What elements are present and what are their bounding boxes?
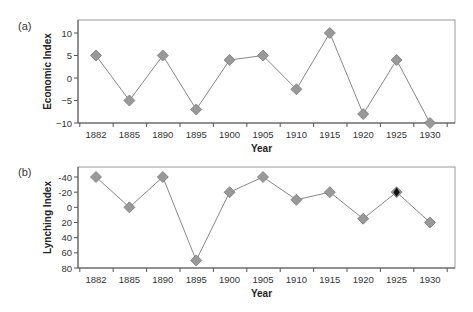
- x-tick-label: 1895: [186, 129, 207, 140]
- x-tick-label: 1920: [353, 274, 374, 285]
- x-tick-label: 1890: [152, 129, 173, 140]
- y-tick-label: -40: [58, 172, 72, 183]
- x-tick-label: 1910: [286, 274, 307, 285]
- data-point-diamond-marker: [358, 213, 369, 224]
- x-tick-label: 1905: [252, 274, 273, 285]
- x-tick-label: 1930: [419, 274, 440, 285]
- x-tick-label: 1885: [119, 274, 140, 285]
- lynching-index-chart: (b) -40-20020406080188218851890189519001…: [0, 150, 473, 312]
- data-point-diamond-marker: [324, 187, 335, 198]
- x-tick-label: 1920: [353, 129, 374, 140]
- x-tick-label: 1882: [85, 274, 106, 285]
- economic-index-plot: 1050−5−101882188518901895190019051910191…: [0, 0, 473, 156]
- y-tick-label: 60: [61, 247, 72, 258]
- x-tick-label: 1900: [219, 129, 240, 140]
- y-axis-title: Economic Index: [42, 33, 53, 110]
- data-point-diamond-marker: [224, 55, 235, 66]
- y-tick-label: 5: [67, 50, 72, 61]
- y-axis-title: Lynching Index: [42, 181, 53, 254]
- y-tick-label: 10: [61, 28, 72, 39]
- data-point-diamond-marker: [291, 194, 302, 205]
- x-tick-label: 1910: [286, 129, 307, 140]
- lynching-index-plot: -40-200204060801882188518901895190019051…: [0, 150, 473, 312]
- x-tick-label: 1915: [319, 274, 340, 285]
- data-point-diamond-marker: [191, 255, 202, 266]
- x-tick-label: 1900: [219, 274, 240, 285]
- data-point-diamond-marker: [191, 104, 202, 115]
- x-tick-label: 1915: [319, 129, 340, 140]
- y-tick-label: 80: [61, 263, 72, 274]
- y-tick-label: −5: [61, 95, 72, 106]
- x-tick-label: 1890: [152, 274, 173, 285]
- y-tick-label: −10: [56, 118, 72, 129]
- y-tick-label: -20: [58, 187, 72, 198]
- data-point-diamond-marker: [258, 172, 269, 183]
- x-tick-label: 1885: [119, 129, 140, 140]
- plot-frame: [78, 20, 455, 123]
- x-tick-label: 1925: [386, 129, 407, 140]
- data-point-diamond-marker: [324, 28, 335, 39]
- x-tick-label: 1895: [186, 274, 207, 285]
- x-tick-label: 1905: [252, 129, 273, 140]
- data-point-diamond-marker: [391, 55, 402, 66]
- y-tick-label: 40: [61, 232, 72, 243]
- series-line: [96, 177, 430, 260]
- plot-frame: [78, 167, 455, 268]
- x-tick-label: 1882: [85, 129, 106, 140]
- economic-index-chart: (a) 1050−5−10188218851890189519001905191…: [0, 0, 473, 156]
- y-tick-label: 0: [67, 73, 72, 84]
- x-axis-title: Year: [251, 288, 272, 299]
- y-tick-label: 0: [67, 202, 72, 213]
- data-point-diamond-marker: [91, 50, 102, 61]
- data-point-diamond-marker: [425, 118, 436, 129]
- y-tick-label: 20: [61, 217, 72, 228]
- x-tick-label: 1925: [386, 274, 407, 285]
- series-line: [96, 33, 430, 123]
- data-point-diamond-marker: [358, 109, 369, 120]
- data-point-diamond-marker: [124, 95, 135, 106]
- data-point-diamond-marker: [157, 50, 168, 61]
- x-tick-label: 1930: [419, 129, 440, 140]
- data-point-diamond-marker: [224, 187, 235, 198]
